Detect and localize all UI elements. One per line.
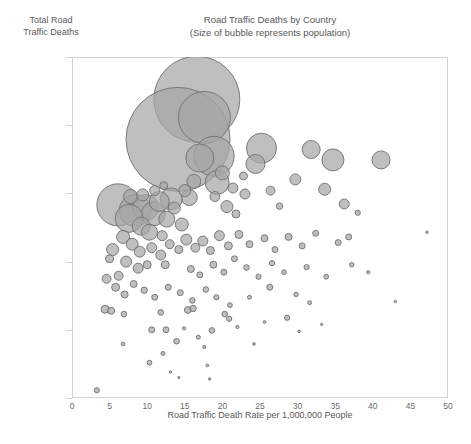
bubble-point <box>319 183 331 195</box>
bubble-point <box>169 371 171 373</box>
bubble-point <box>190 305 196 311</box>
bubble-point <box>187 265 194 272</box>
bubble-point <box>350 263 354 267</box>
bubble-point <box>161 351 165 355</box>
y-tick-mark <box>66 193 72 194</box>
bubble-point <box>143 261 151 269</box>
bubble-point <box>308 301 312 305</box>
y-tick-mark <box>66 125 72 126</box>
bubble-point <box>214 231 224 241</box>
bubble-point <box>294 292 298 296</box>
bubble-point <box>290 174 301 185</box>
bubble-point <box>141 224 157 240</box>
bubble-point <box>160 182 168 190</box>
bubble-point <box>239 172 247 180</box>
bubble-point <box>322 149 344 171</box>
chart-title: Road Traffic Deaths by Country (Size of … <box>150 14 390 39</box>
chart-subtitle: (Size of bubble represents population) <box>150 27 390 40</box>
bubble-chart: Total Road Traffic Deaths Road Traffic D… <box>0 0 471 444</box>
bubble-point <box>224 242 232 250</box>
bubble-point <box>147 360 152 365</box>
bubble-point <box>247 295 251 299</box>
y-axis-title-line2: Traffic Deaths <box>12 26 90 38</box>
bubble-point <box>147 243 157 253</box>
bubble-point <box>394 300 396 302</box>
bubble-point <box>231 256 237 262</box>
bubble-point <box>302 141 320 159</box>
bubble-point <box>141 287 147 293</box>
bubble-point <box>196 335 200 339</box>
bubble-point <box>133 263 143 273</box>
bubble-point <box>149 327 155 333</box>
bubble-point <box>152 294 158 300</box>
bubble-point <box>324 274 329 279</box>
bubble-point <box>163 327 169 333</box>
bubble-point <box>210 192 220 202</box>
bubble-point <box>203 287 209 293</box>
bubble-point <box>221 201 233 213</box>
bubble-point <box>320 323 322 325</box>
bubble-point <box>244 265 250 271</box>
bubble-point <box>236 325 239 328</box>
bubble-point <box>222 311 228 317</box>
bubble-point <box>240 189 250 199</box>
bubble-point <box>158 310 164 316</box>
bubble-point <box>272 247 278 253</box>
bubble-point <box>208 378 210 380</box>
bubble-point <box>190 298 196 304</box>
y-axis-title-line1: Total Road <box>12 14 90 26</box>
bubble-point <box>203 345 206 348</box>
bubble-point <box>175 246 183 254</box>
bubble-point <box>197 272 203 278</box>
bubble-point <box>261 235 268 242</box>
bubble-point <box>137 189 149 201</box>
bubble-point <box>246 154 265 173</box>
bubble-point <box>214 295 219 300</box>
bubble-point <box>209 328 215 334</box>
bubble-point <box>121 311 127 317</box>
y-tick-mark <box>66 57 72 58</box>
bubble-point <box>182 327 185 330</box>
bubble-point <box>282 270 287 275</box>
bubble-point <box>346 234 352 240</box>
bubble-point <box>121 291 128 298</box>
bubble-point <box>130 280 137 287</box>
bubble-point <box>191 243 200 252</box>
bubble-point <box>253 343 256 346</box>
bubble-point <box>210 261 217 268</box>
y-tick-mark <box>66 330 72 331</box>
bubble-point <box>181 234 192 245</box>
bubble-point <box>156 250 166 260</box>
bubble-point <box>112 283 120 291</box>
bubble-point <box>228 303 233 308</box>
bubble-point <box>121 342 125 346</box>
bubble-point <box>175 218 188 231</box>
y-tick-mark <box>66 262 72 263</box>
bubble-point <box>335 240 341 246</box>
bubble-point <box>263 321 266 324</box>
bubble-point <box>215 166 229 180</box>
bubble-point <box>284 315 289 320</box>
bubble-point <box>269 261 274 266</box>
bubble-point <box>107 244 119 256</box>
bubble-point <box>174 338 180 344</box>
bubble-point <box>177 290 183 296</box>
bubble-series <box>72 57 448 398</box>
bubble-point <box>367 271 370 274</box>
bubble-point <box>186 144 214 172</box>
bubble-point <box>198 236 208 246</box>
bubble-point <box>106 255 114 263</box>
bubble-point <box>355 210 360 215</box>
bubble-point <box>313 230 319 236</box>
y-tick-mark <box>66 398 72 399</box>
bubble-point <box>178 376 180 378</box>
bubble-point <box>221 269 227 275</box>
bubble-point <box>298 330 301 333</box>
bubble-point <box>227 316 232 321</box>
bubble-point <box>114 271 123 280</box>
bubble-point <box>267 284 273 290</box>
bubble-point <box>165 284 171 290</box>
bubble-point <box>339 199 349 209</box>
bubble-point <box>168 202 180 214</box>
bubble-point <box>256 274 261 279</box>
